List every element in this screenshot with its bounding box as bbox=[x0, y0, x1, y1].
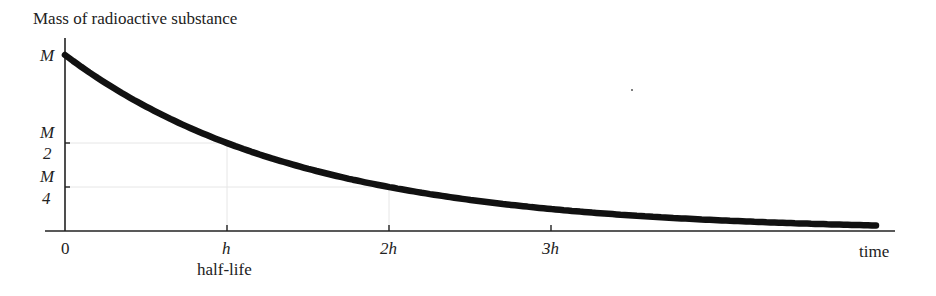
chart-title: Mass of radioactive substance bbox=[33, 10, 237, 27]
x-label-half-life: half-life bbox=[197, 261, 252, 278]
decay-curve bbox=[65, 55, 876, 226]
y-label-quarter-denominator: 4 bbox=[42, 190, 51, 207]
stray-dot bbox=[631, 89, 633, 91]
x-label-2h: 2h bbox=[380, 240, 397, 257]
y-label-quarter-numerator: M bbox=[40, 168, 54, 185]
x-label-h: h bbox=[222, 240, 231, 257]
y-label-half-denominator: 2 bbox=[43, 145, 52, 162]
x-label-time: time bbox=[859, 243, 889, 260]
y-label-M: M bbox=[40, 47, 54, 64]
y-label-half-numerator: M bbox=[40, 124, 54, 141]
x-label-0: 0 bbox=[61, 240, 70, 257]
decay-chart bbox=[0, 0, 936, 296]
x-label-3h: 3h bbox=[542, 240, 559, 257]
